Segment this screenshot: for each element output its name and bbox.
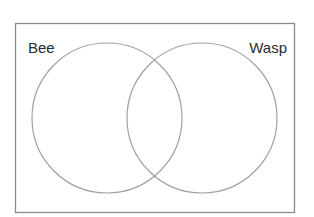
wasp-circle	[127, 43, 277, 193]
venn-diagram: Bee Wasp	[0, 0, 314, 217]
bee-label: Bee	[28, 39, 55, 56]
wasp-label: Wasp	[249, 39, 287, 56]
bee-circle	[32, 43, 182, 193]
